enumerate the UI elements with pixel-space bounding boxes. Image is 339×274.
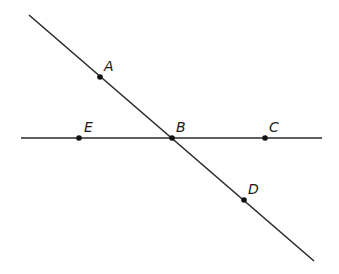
point-c-label: C xyxy=(269,119,279,135)
point-e-label: E xyxy=(84,119,93,135)
point-c-dot xyxy=(262,135,268,141)
point-a-label: A xyxy=(103,58,114,74)
point-d-dot xyxy=(241,197,247,203)
point-b-label: B xyxy=(176,119,186,135)
geometry-diagram: ABCDE xyxy=(0,0,339,274)
point-d-label: D xyxy=(248,181,259,197)
point-e-dot xyxy=(76,135,82,141)
point-b-dot xyxy=(169,135,175,141)
point-a-dot xyxy=(97,74,103,80)
